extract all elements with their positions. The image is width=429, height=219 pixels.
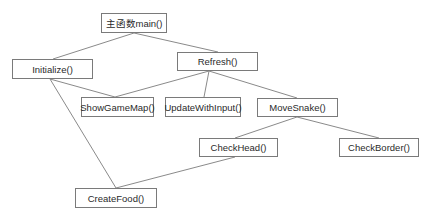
edge-refresh-move (209, 71, 297, 98)
node-food: CreateFood() (75, 188, 157, 208)
node-head: CheckHead() (199, 138, 278, 157)
node-move: MoveSnake() (257, 98, 338, 117)
edge-move-head (235, 117, 297, 138)
edge-main-init (53, 33, 134, 59)
node-label: Refresh() (198, 56, 238, 67)
node-label: CreateFood() (88, 193, 145, 204)
node-label: CheckBorder() (348, 142, 410, 153)
node-update: UpdateWithInput() (165, 97, 241, 117)
edge-head-food (116, 157, 235, 188)
node-border: CheckBorder() (339, 138, 419, 157)
edge-refresh-showmap (115, 71, 209, 97)
node-label: Initialize() (32, 64, 73, 75)
edge-refresh-update (204, 71, 209, 97)
node-showmap: ShowGameMap() (81, 97, 154, 117)
node-label: ShowGameMap() (80, 102, 154, 113)
edge-move-border (297, 117, 379, 138)
edge-init-food (50, 79, 116, 188)
node-init: Initialize() (12, 59, 93, 79)
node-label: UpdateWithInput() (164, 102, 241, 113)
edge-main-refresh (134, 33, 218, 52)
node-refresh: Refresh() (177, 52, 258, 71)
node-label: CheckHead() (211, 142, 267, 153)
node-label: MoveSnake() (269, 102, 326, 113)
node-main: 主函数main() (101, 13, 167, 33)
node-label: 主函数main() (106, 16, 163, 30)
